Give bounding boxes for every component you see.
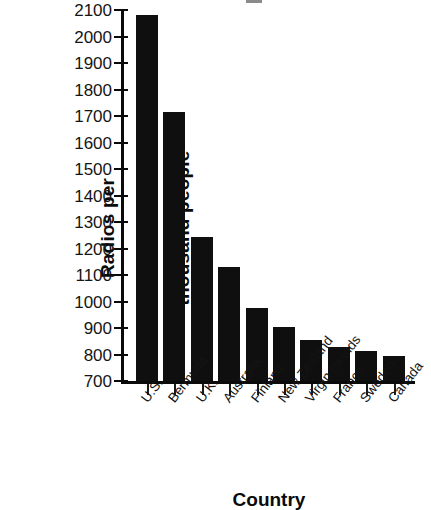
y-axis-tick-label: 1700 (34, 108, 112, 125)
y-axis-tick-label: 1800 (34, 82, 112, 99)
x-axis-tick-labels: U.S.BermudaU.K.AustraliaFinlandNew Zeala… (0, 396, 431, 486)
bar (163, 112, 185, 381)
y-axis-tick-label: 1100 (34, 267, 112, 284)
bar (218, 267, 240, 381)
bars-layer (121, 0, 417, 384)
x-axis-title: Country (121, 489, 417, 510)
y-axis-tick-label: 1500 (34, 161, 112, 178)
y-axis-tick-label: 1200 (34, 241, 112, 258)
y-axis-tick-label: 900 (34, 320, 112, 337)
y-axis-tick-labels: 2100200019001800170016001500140013001200… (34, 0, 112, 400)
y-axis-tick-label: 1900 (34, 55, 112, 72)
y-axis-tick-label: 2000 (34, 29, 112, 46)
y-axis-tick-label: 1400 (34, 188, 112, 205)
bar-chart-figure: Radios per thousand people 2100200019001… (0, 0, 431, 510)
y-axis-tick-label: 1600 (34, 135, 112, 152)
y-axis-tick-label: 1300 (34, 214, 112, 231)
plot-area (121, 0, 417, 384)
y-axis-tick-label: 800 (34, 347, 112, 364)
y-axis-tick-label: 2100 (34, 2, 112, 19)
bar (136, 15, 158, 381)
y-axis-tick-label: 1000 (34, 294, 112, 311)
y-axis-tick-label: 700 (34, 373, 112, 390)
